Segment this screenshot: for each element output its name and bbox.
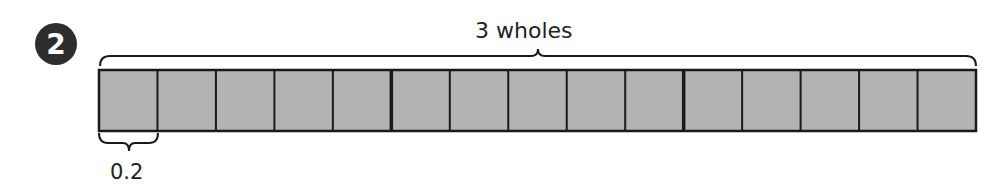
bar-cell (567, 70, 625, 131)
bar-cell (625, 70, 683, 131)
bar-cell (742, 70, 800, 131)
bar-cell (216, 70, 274, 131)
bar-cell (391, 70, 449, 131)
bar-model-diagram (0, 0, 1005, 187)
unit-label: 0.2 (110, 160, 143, 184)
bar-cell (274, 70, 332, 131)
bar-cell (684, 70, 742, 131)
bar-cell (508, 70, 566, 131)
bar-cell (801, 70, 859, 131)
bar-cell (859, 70, 917, 131)
bar-cell (450, 70, 508, 131)
bar-cell (918, 70, 976, 131)
bar-cell (333, 70, 391, 131)
bar-cell (99, 70, 157, 131)
top-brace (100, 49, 976, 66)
unit-brace (99, 133, 158, 151)
bar-cells (99, 70, 976, 131)
bar-cell (157, 70, 215, 131)
